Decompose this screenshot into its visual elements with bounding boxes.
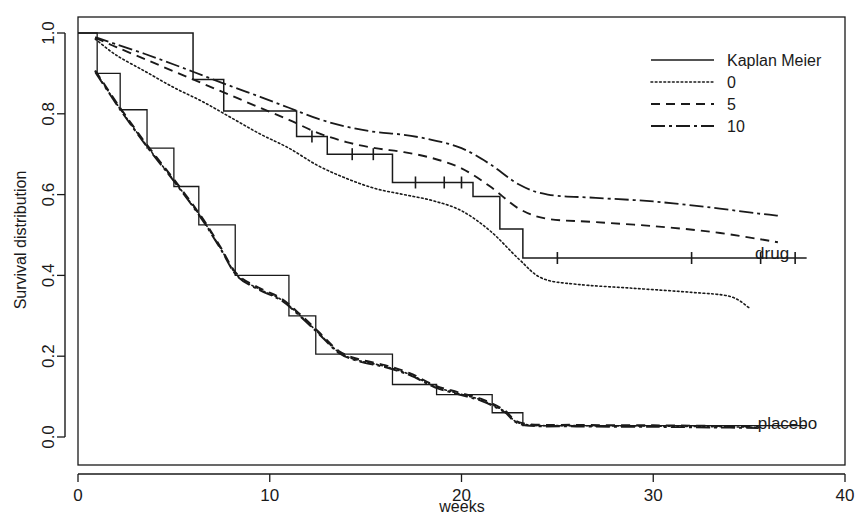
- survival-plot-figure: 010203040 0.00.20.40.60.81.0 drugplacebo…: [0, 0, 866, 522]
- y-axis: 0.00.20.40.60.81.0: [39, 21, 65, 449]
- x-axis-tick-label: 10: [260, 486, 279, 505]
- survival-plot-svg: 010203040 0.00.20.40.60.81.0 drugplacebo…: [0, 0, 866, 522]
- legend-label: 10: [727, 118, 745, 135]
- series-curve: [95, 71, 758, 427]
- y-axis-tick-label: 0.6: [39, 183, 58, 207]
- group-annotations: drugplacebo: [755, 244, 817, 433]
- legend-label: 5: [727, 96, 736, 113]
- series-curve: [78, 33, 807, 426]
- y-axis-tick-label: 0.4: [39, 264, 58, 288]
- series-curve: [95, 37, 778, 216]
- censoring-marks-group: [312, 130, 795, 264]
- series-curve: [78, 33, 807, 258]
- y-axis-tick-label: 1.0: [39, 21, 58, 45]
- x-axis-title: weeks: [438, 498, 484, 515]
- y-axis-tick-label: 0.2: [39, 344, 58, 368]
- y-axis-title: Survival distribution: [12, 171, 29, 310]
- data-series-group: [78, 33, 807, 428]
- y-axis-tick-label: 0.0: [39, 425, 58, 449]
- legend-label: 0: [727, 74, 736, 91]
- legend-label: Kaplan Meier: [727, 52, 822, 69]
- x-axis-tick-label: 0: [73, 486, 82, 505]
- chart-legend: Kaplan Meier0510: [651, 52, 822, 135]
- series-curve: [95, 71, 758, 427]
- y-axis-tick-label: 0.8: [39, 102, 58, 126]
- group-label: placebo: [758, 414, 818, 433]
- x-axis-tick-label: 30: [644, 486, 663, 505]
- x-axis-tick-label: 40: [836, 486, 855, 505]
- group-label: drug: [755, 244, 789, 263]
